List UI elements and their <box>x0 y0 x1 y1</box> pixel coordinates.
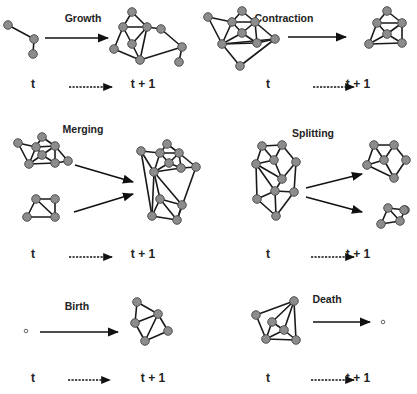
graph-node <box>175 149 184 158</box>
graph-node <box>251 18 260 27</box>
time-label-t-plus-1: t + 1 <box>346 371 371 385</box>
panel-splitting: Splittingtt + 1 <box>252 127 411 261</box>
community-after <box>110 8 187 67</box>
graph-node <box>156 195 165 204</box>
graph-node <box>383 30 392 39</box>
community-before <box>4 21 39 59</box>
graph-node <box>271 35 280 44</box>
transition-arrow <box>306 174 362 188</box>
graph-node <box>29 50 38 59</box>
time-label-t-plus-1: t + 1 <box>131 77 156 91</box>
graph-node <box>253 195 262 204</box>
graph-node <box>51 159 60 168</box>
graph-node <box>32 195 41 204</box>
community-after <box>137 140 201 225</box>
community-before <box>252 141 301 221</box>
community-before <box>14 133 73 169</box>
community-before <box>252 297 301 345</box>
graph-node <box>163 140 172 149</box>
event-title: Splitting <box>292 127 334 139</box>
graph-node <box>38 151 47 160</box>
graph-node <box>178 43 187 52</box>
event-title: Contraction <box>255 12 314 24</box>
graph-edge <box>140 47 182 60</box>
graph-node <box>262 335 271 344</box>
time-label-t-plus-1: t + 1 <box>141 371 166 385</box>
graph-edge <box>256 301 294 315</box>
graph-node <box>390 141 399 150</box>
graph-node <box>278 141 287 150</box>
graph-node <box>253 39 262 48</box>
empty-point-icon <box>24 329 28 333</box>
graph-node <box>51 213 60 222</box>
graph-node <box>271 187 280 196</box>
graph-node <box>32 143 41 152</box>
graph-node <box>110 45 119 54</box>
time-label-t: t <box>31 77 35 91</box>
time-label-t-plus-1: t + 1 <box>346 247 371 261</box>
panel-merging: Mergingtt + 1 <box>14 123 201 261</box>
transition-arrow <box>74 194 133 212</box>
time-label-t: t <box>31 247 35 261</box>
graph-node <box>292 336 301 345</box>
graph-node <box>390 174 399 183</box>
graph-node <box>156 149 165 158</box>
graph-edge <box>256 164 275 191</box>
transition-arrow <box>306 197 362 212</box>
graph-node <box>148 212 157 221</box>
panel-contraction: Contractiontt + 1 <box>204 7 407 91</box>
graph-node <box>398 39 407 48</box>
panel-growth: Growthtt + 1 <box>4 8 187 91</box>
event-title: Death <box>312 293 341 305</box>
time-label-t: t <box>31 371 35 385</box>
graph-node <box>380 156 389 165</box>
graph-node <box>23 213 32 222</box>
graph-node <box>238 29 247 38</box>
graph-node <box>396 217 405 226</box>
graph-node <box>165 159 174 168</box>
panel-death: Deathtt + 1 <box>252 293 385 385</box>
graph-node <box>268 318 277 327</box>
graph-node <box>278 175 287 184</box>
event-title: Merging <box>63 123 104 135</box>
graph-edge <box>369 43 402 44</box>
time-label-t-plus-1: t + 1 <box>131 247 156 261</box>
graph-node <box>133 298 142 307</box>
graph-node <box>258 142 267 151</box>
graph-node <box>136 56 145 65</box>
graph-node <box>38 133 47 142</box>
graph-edge <box>177 167 196 220</box>
event-title: Growth <box>65 12 102 24</box>
graph-node <box>252 160 261 169</box>
graph-node <box>164 327 173 336</box>
graph-node <box>272 212 281 221</box>
panels-layer: Growthtt + 1Contractiontt + 1Mergingtt +… <box>4 7 411 385</box>
graph-node <box>137 147 146 156</box>
graph-node <box>204 13 213 22</box>
empty-point-icon <box>381 320 385 324</box>
graph-edge <box>256 164 257 199</box>
graph-node <box>238 7 247 16</box>
graph-node <box>383 7 392 16</box>
graph-node <box>218 40 227 49</box>
graph-node <box>64 157 73 166</box>
graph-node <box>290 297 299 306</box>
community-after <box>131 298 173 346</box>
graph-node <box>398 19 407 28</box>
event-title: Birth <box>65 300 90 312</box>
graph-node <box>365 40 374 49</box>
graph-node <box>292 158 301 167</box>
graph-node <box>373 19 382 28</box>
graph-node <box>154 310 163 319</box>
graph-node <box>14 139 23 148</box>
graph-edge <box>294 301 296 340</box>
community-after <box>377 204 410 229</box>
graph-node <box>252 311 261 320</box>
graph-node <box>370 141 379 150</box>
graph-edge <box>152 172 154 216</box>
graph-node <box>192 163 201 172</box>
community-before <box>23 195 60 222</box>
time-label-t: t <box>266 371 270 385</box>
graph-node <box>150 168 159 177</box>
graph-node <box>51 142 60 151</box>
